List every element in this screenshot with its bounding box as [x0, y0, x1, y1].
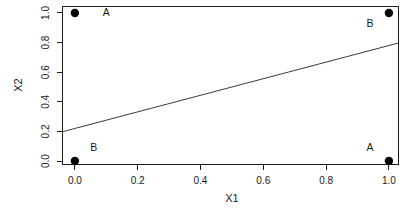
y-axis-tick-label: 0.2 — [40, 124, 51, 138]
x-axis-tick-label: 1.0 — [382, 175, 396, 186]
x-axis-tick-label: 0.6 — [256, 175, 270, 186]
point-label: B — [90, 141, 97, 153]
point-label: A — [367, 141, 374, 153]
y-axis-tick-label: 0.6 — [40, 65, 51, 79]
data-point — [385, 157, 393, 165]
x-axis-tick-label: 0.8 — [319, 175, 333, 186]
data-point — [71, 9, 79, 17]
r-scatter-plot-figure: 0.00.20.40.60.81.00.00.20.40.60.81.0X1X2… — [0, 0, 418, 214]
data-point — [385, 9, 393, 17]
point-label: A — [103, 6, 110, 18]
y-axis-tick-label: 0.4 — [40, 94, 51, 108]
y-axis-tick-label: 1.0 — [40, 6, 51, 20]
y-axis-tick-label: 0.0 — [40, 154, 51, 168]
plot-background — [0, 0, 418, 214]
x-axis-tick-label: 0.0 — [68, 175, 82, 186]
scatter-plot-canvas: 0.00.20.40.60.81.00.00.20.40.60.81.0X1X2… — [0, 0, 418, 214]
y-axis-title: X2 — [12, 78, 24, 91]
x-axis-tick-label: 0.2 — [131, 175, 145, 186]
y-axis-tick-label: 0.8 — [40, 35, 51, 49]
x-axis-title: X1 — [225, 192, 238, 204]
data-point — [71, 157, 79, 165]
x-axis-tick-label: 0.4 — [194, 175, 208, 186]
point-label: B — [367, 17, 374, 29]
